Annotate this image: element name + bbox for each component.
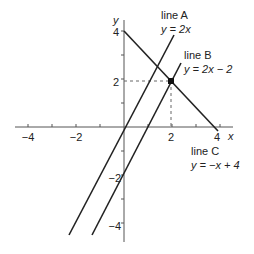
y-tick-label: −4 — [108, 220, 121, 232]
x-tick-label: −4 — [22, 131, 35, 143]
x-axis-label: x — [227, 130, 234, 142]
y-tick-label: −2 — [108, 172, 121, 184]
coordinate-plane: −4 −2 2 4 4 2 −2 −4 y x line A y = 2x li… — [0, 0, 254, 254]
x-tick-label: −2 — [70, 131, 83, 143]
line-b-equation: y = 2x − 2 — [183, 63, 232, 75]
y-tick-label: 2 — [113, 76, 119, 88]
y-tick-label: 4 — [113, 26, 119, 38]
intersection-point — [168, 78, 174, 84]
x-tick-label: 2 — [168, 131, 174, 143]
line-a — [69, 35, 174, 235]
dashed-guides — [124, 81, 171, 127]
line-c-equation: y = −x + 4 — [190, 159, 240, 171]
line-b-name: line B — [184, 49, 212, 61]
line-b — [92, 63, 181, 235]
line-a-name: line A — [161, 9, 189, 21]
line-a-equation: y = 2x — [160, 23, 191, 35]
y-axis-label: y — [112, 14, 120, 26]
line-c-name: line C — [191, 145, 219, 157]
x-tick-label: 4 — [214, 131, 220, 143]
